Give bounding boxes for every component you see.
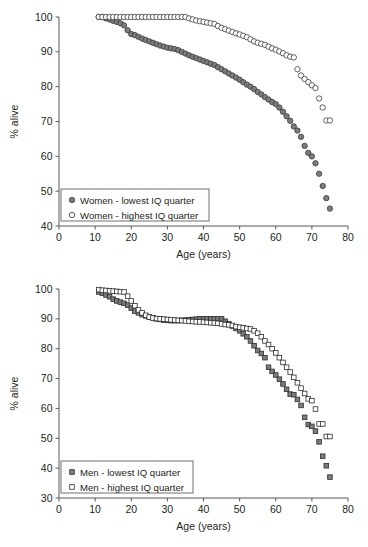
data-point [277,355,282,360]
y-tick-label: 40 [41,462,53,474]
data-point [295,380,300,385]
y-tick-label: 40 [41,220,53,232]
y-tick-label: 50 [41,185,53,197]
y-tick-label: 90 [41,45,53,57]
data-point [299,386,304,391]
legend-marker-filled-circle [69,197,74,202]
data-point [295,128,300,133]
x-tick-label: 0 [56,231,62,243]
x-tick-label: 80 [342,231,354,243]
data-point [310,424,315,429]
data-point [277,377,282,382]
legend-item-label: Women - lowest IQ quarter [80,195,195,206]
data-point [313,407,318,412]
data-point [252,343,257,348]
series-1-points [96,14,333,211]
x-tick-label: 60 [270,503,282,515]
x-tick-label: 30 [162,503,174,515]
men-survival-chart: 3040506070809010001020304050607080Age (y… [0,274,368,547]
y-tick-label: 70 [41,115,53,127]
data-point [291,55,296,60]
data-point [320,183,325,188]
x-tick-label: 70 [306,231,318,243]
x-tick-label: 40 [198,503,210,515]
data-point [280,109,285,114]
y-tick-label: 80 [41,342,53,354]
legend: Women - lowest IQ quarterWomen - highest… [61,189,209,221]
data-point [248,339,253,344]
data-point [316,96,321,101]
data-point [295,67,300,72]
legend-item-label: Women - highest IQ quarter [80,210,199,221]
y-tick-label: 90 [41,312,53,324]
data-point [324,463,329,468]
y-axis-title: % alive [8,104,20,138]
data-point [292,375,297,380]
data-point [328,434,333,439]
y-tick-label: 80 [41,80,53,92]
x-tick-label: 10 [89,503,101,515]
data-point [281,360,286,365]
data-point [284,387,289,392]
data-point [320,105,325,110]
y-tick-label: 50 [41,432,53,444]
data-point [129,299,134,304]
data-point [317,440,322,445]
x-tick-label: 0 [56,503,62,515]
data-point [327,118,332,123]
x-tick-label: 50 [234,231,246,243]
data-point [121,23,126,28]
data-point [313,161,318,166]
y-tick-label: 60 [41,150,53,162]
legend-item-label: Men - lowest IQ quarter [80,467,181,478]
x-tick-label: 60 [270,231,282,243]
data-point [298,134,303,139]
data-point [327,206,332,211]
x-tick-label: 70 [306,503,318,515]
data-point [281,382,286,387]
y-tick-label: 60 [41,402,53,414]
data-point [313,429,318,434]
legend-marker-open-circle [69,212,74,217]
data-point [288,118,293,123]
data-point [310,398,315,403]
data-point [324,195,329,200]
legend: Men - lowest IQ quarterMen - highest IQ … [61,461,193,493]
data-point [263,355,268,360]
data-point [302,415,307,420]
y-tick-label: 70 [41,372,53,384]
x-tick-label: 20 [125,231,137,243]
data-point [320,454,325,459]
y-tick-label: 100 [35,283,53,295]
data-point [125,294,130,299]
x-tick-label: 50 [234,503,246,515]
data-point [284,114,289,119]
data-point [328,475,333,480]
data-point [295,397,300,402]
data-point [292,392,297,397]
x-tick-label: 40 [198,231,210,243]
data-point [302,143,307,148]
data-point [309,154,314,159]
data-point [299,403,304,408]
x-tick-label: 10 [89,231,101,243]
y-tick-label: 100 [35,11,53,23]
survival-curves-figure: 40506070809010001020304050607080Age (yea… [0,0,368,547]
data-point [284,365,289,370]
data-point [273,351,278,356]
data-point [313,85,318,90]
x-axis-title: Age (years) [176,248,230,260]
legend-item-label: Men - highest IQ quarter [80,482,185,493]
x-tick-label: 20 [125,503,137,515]
data-point [302,391,307,396]
data-point [288,370,293,375]
series-2-points [96,14,333,123]
data-point [320,422,325,427]
x-tick-label: 30 [162,231,174,243]
data-point [316,171,321,176]
legend-marker-filled-square [70,470,75,475]
y-axis-title: % alive [8,376,20,410]
x-axis-title: Age (years) [176,520,230,532]
women-survival-chart: 40506070809010001020304050607080Age (yea… [0,0,368,274]
chart-panel-women: 40506070809010001020304050607080Age (yea… [0,0,368,274]
